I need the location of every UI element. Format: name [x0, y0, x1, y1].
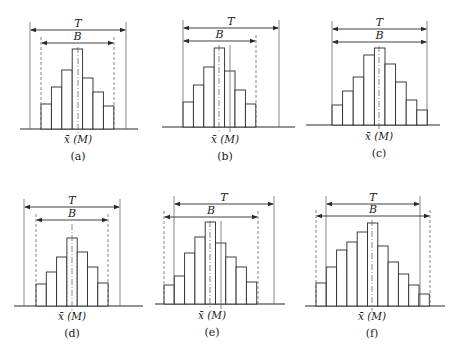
histogram-bar — [236, 267, 246, 304]
histogram-panel-c: TBx̄ (M)(c) — [306, 16, 440, 160]
histogram-bar — [98, 283, 108, 306]
histogram-bar — [205, 222, 215, 304]
histogram-bar — [368, 223, 378, 306]
histogram-bar — [364, 55, 375, 125]
histogram-bar — [406, 100, 417, 125]
spread-B-label: B — [206, 204, 215, 217]
histograms-canvas: TBx̄ (M)(a)TBx̄ (M)(b)TBx̄ (M)(c)TBx̄ (M… — [0, 0, 457, 353]
histogram-bar — [378, 246, 388, 306]
histogram-bar — [337, 250, 347, 306]
histogram-bar — [332, 105, 343, 125]
spread-B-label: B — [214, 28, 223, 41]
histogram-bar — [353, 77, 364, 125]
center-label: x̄ (M) — [358, 310, 386, 322]
histogram-bar — [417, 110, 428, 125]
panel-caption: (a) — [70, 150, 85, 163]
histogram-bar — [164, 285, 174, 304]
tolerance-T-dimension-left-arrowhead-icon — [30, 28, 36, 32]
spread-B-label: B — [374, 29, 383, 42]
spread-B-dimension-right-arrowhead-icon — [424, 214, 430, 218]
histogram-bar — [62, 70, 72, 129]
spread-B-dimension-left-arrowhead-icon — [164, 215, 170, 219]
panel-caption: (e) — [204, 326, 219, 339]
tolerance-T-label: T — [376, 16, 385, 29]
histogram-bar — [316, 283, 326, 306]
histogram-bar — [374, 48, 385, 125]
tolerance-T-label: T — [227, 15, 236, 28]
histogram-bar — [409, 285, 419, 306]
histogram-bar — [343, 91, 354, 125]
histogram-bar — [36, 284, 46, 306]
tolerance-T-dimension-right-arrowhead-icon — [114, 205, 120, 209]
tolerance-T-dimension-right-arrowhead-icon — [414, 202, 420, 206]
histogram-bar — [174, 276, 184, 304]
spread-B-dimension-left-arrowhead-icon — [316, 214, 322, 218]
histogram-bar — [347, 242, 357, 306]
tolerance-T-dimension-right-arrowhead-icon — [120, 28, 126, 32]
tolerance-T-label: T — [68, 194, 77, 207]
spread-B-label: B — [72, 30, 81, 43]
histogram-bar — [326, 267, 336, 306]
histogram-bar — [46, 272, 56, 306]
spread-B-label: B — [368, 203, 377, 216]
tolerance-T-dimension-right-arrowhead-icon — [268, 202, 274, 206]
panel-caption: (f) — [366, 327, 379, 340]
spread-B-dimension-right-arrowhead-icon — [250, 39, 256, 43]
center-label: x̄ (M) — [198, 309, 226, 321]
center-label: x̄ (M) — [58, 310, 86, 322]
histogram-bar — [246, 282, 256, 304]
histogram-bar — [41, 104, 51, 129]
spread-B-dimension-left-arrowhead-icon — [36, 218, 42, 222]
histogram-bar — [226, 257, 236, 304]
histogram-bar — [51, 87, 61, 129]
histogram-panel-d: TBx̄ (M)(d) — [14, 194, 143, 340]
tolerance-T-label: T — [74, 17, 83, 30]
tolerance-T-dimension-left-arrowhead-icon — [332, 27, 338, 31]
histogram-bar — [77, 252, 87, 306]
histogram-bar — [195, 237, 205, 304]
spread-B-dimension-right-arrowhead-icon — [108, 41, 114, 45]
histogram-panel-b: TBx̄ (M)(b) — [162, 15, 295, 163]
spread-B-dimension-right-arrowhead-icon — [421, 40, 427, 44]
histogram-bar — [72, 49, 82, 129]
histogram-bar — [385, 64, 396, 125]
tolerance-T-dimension-left-arrowhead-icon — [24, 205, 30, 209]
histogram-bar — [193, 85, 203, 127]
spread-B-label: B — [67, 207, 76, 220]
center-label: x̄ (M) — [365, 130, 393, 142]
histogram-panel-f: TBx̄ (M)(f) — [305, 191, 445, 340]
histogram-bar — [185, 253, 195, 304]
histogram-panel-a: TBx̄ (M)(a) — [20, 17, 138, 163]
histogram-bar — [214, 48, 224, 127]
histogram-bar — [357, 232, 367, 306]
histogram-bar — [235, 90, 245, 127]
center-label: x̄ (M) — [64, 133, 92, 145]
histogram-bar — [204, 67, 214, 127]
spread-B-dimension-left-arrowhead-icon — [332, 40, 338, 44]
histogram-panel-e: TBx̄ (M)(e) — [155, 191, 285, 339]
histogram-bar — [57, 257, 67, 306]
panel-caption: (b) — [217, 150, 233, 163]
panel-caption: (c) — [372, 147, 387, 160]
spread-B-dimension-left-arrowhead-icon — [183, 39, 189, 43]
panel-caption: (d) — [64, 327, 80, 340]
histogram-bar — [93, 92, 103, 129]
tolerance-T-dimension-right-arrowhead-icon — [421, 27, 427, 31]
tolerance-T-label: T — [220, 191, 229, 204]
histogram-bar — [245, 104, 255, 127]
spread-B-dimension-right-arrowhead-icon — [252, 215, 258, 219]
center-label: x̄ (M) — [211, 133, 239, 145]
tolerance-T-dimension-left-arrowhead-icon — [174, 202, 180, 206]
histogram-bar — [183, 102, 193, 127]
tolerance-T-dimension-left-arrowhead-icon — [183, 26, 189, 30]
histogram-bar — [88, 267, 98, 306]
histogram-bar — [103, 106, 113, 129]
tolerance-T-dimension-right-arrowhead-icon — [273, 26, 279, 30]
histogram-bar — [419, 294, 429, 306]
spread-B-dimension-left-arrowhead-icon — [41, 41, 47, 45]
histogram-bar — [83, 78, 93, 129]
histogram-bar — [388, 262, 398, 306]
spread-B-dimension-right-arrowhead-icon — [102, 218, 108, 222]
histogram-bar — [396, 82, 407, 125]
histogram-bar — [398, 274, 408, 306]
